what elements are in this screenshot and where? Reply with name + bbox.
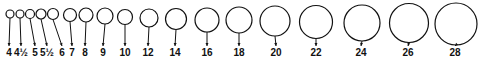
ring-size-label: 12	[142, 47, 154, 58]
pointer-line	[30, 19, 35, 47]
ring-size-item: 18	[226, 7, 252, 58]
pointer-line	[41, 19, 47, 46]
ring-size-item: 20	[260, 6, 290, 58]
arrowhead-icon	[102, 43, 105, 46]
ring-size-label: 18	[233, 47, 245, 58]
ring-circle	[226, 7, 252, 33]
ring-size-label: 8	[82, 47, 88, 58]
ring-size-diagram: 44½55½678910121416182022242628	[0, 0, 487, 61]
ring-size-item: 22	[300, 6, 333, 59]
ring-circle	[344, 5, 380, 41]
ring-size-item: 10	[118, 10, 133, 59]
ring-size-label: 5	[32, 47, 38, 58]
pointer-line	[85, 22, 86, 46]
ring-circle	[79, 8, 93, 22]
ring-size-item: 12	[140, 9, 158, 58]
arrowhead-icon	[206, 43, 209, 46]
pointer-line	[9, 18, 10, 46]
ring-circle	[118, 10, 133, 25]
arrowhead-icon	[70, 43, 73, 46]
ring-size-label: 28	[449, 47, 461, 58]
arrowhead-icon	[8, 43, 11, 46]
ring-circle	[64, 9, 77, 22]
ring-circle	[16, 10, 24, 18]
ring-size-item: 26	[390, 4, 429, 59]
pointer-line	[53, 20, 62, 47]
ring-circle	[390, 4, 429, 43]
ring-circle	[48, 9, 59, 20]
ring-circle	[260, 6, 290, 36]
ring-size-item: 28	[435, 3, 477, 58]
ring-circle	[36, 9, 46, 19]
ring-circle	[26, 10, 35, 19]
ring-size-item: 16	[195, 8, 219, 58]
ring-size-item: 14	[166, 9, 187, 59]
ring-circle	[435, 3, 477, 45]
ring-circle	[140, 9, 158, 27]
ring-size-label: 22	[310, 47, 322, 58]
pointer-line	[20, 18, 21, 46]
ring-size-label: 6	[59, 47, 65, 58]
arrowhead-icon	[147, 43, 150, 46]
ring-circle	[166, 9, 187, 30]
ring-size-item: 7	[64, 9, 77, 59]
ring-size-label: 26	[402, 47, 414, 58]
ring-size-label: 20	[270, 47, 282, 58]
arrowhead-icon	[60, 43, 63, 46]
ring-size-item: 4½	[14, 10, 28, 58]
ring-circle	[6, 10, 14, 18]
arrowhead-icon	[19, 43, 22, 46]
ring-size-item: 9	[97, 8, 113, 58]
pointer-line	[103, 24, 105, 46]
ring-size-item: 4	[6, 10, 14, 58]
rings-group: 44½55½678910121416182022242628	[6, 3, 477, 58]
arrowhead-icon	[84, 43, 87, 46]
pointer-line	[70, 22, 72, 47]
ring-circle	[300, 6, 333, 39]
ring-circle	[97, 8, 113, 24]
ring-size-label: 4	[6, 47, 12, 58]
arrowhead-icon	[315, 43, 318, 46]
ring-size-item: 8	[79, 8, 93, 58]
ring-size-item: 24	[344, 5, 380, 58]
arrowhead-icon	[124, 43, 127, 46]
ring-size-label: 24	[355, 47, 367, 58]
arrowhead-icon	[238, 43, 241, 46]
ring-size-label: 4½	[14, 47, 28, 58]
ring-size-item: 5½	[36, 9, 54, 58]
ring-size-label: 14	[169, 47, 181, 58]
ring-size-label: 7	[69, 47, 75, 58]
ring-size-label: 16	[201, 47, 213, 58]
ring-size-label: 9	[100, 47, 106, 58]
arrowhead-icon	[174, 43, 177, 46]
ring-size-label: 10	[119, 47, 131, 58]
ring-size-label: 5½	[40, 47, 54, 58]
ring-circle	[195, 8, 219, 32]
